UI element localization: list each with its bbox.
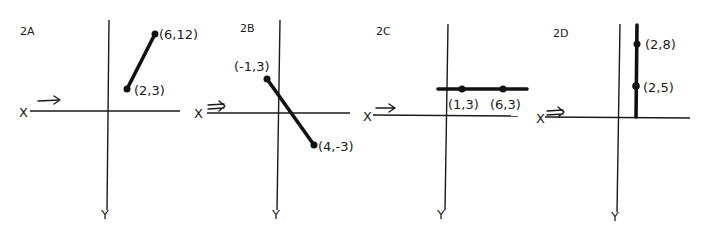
point-label: (6,12) — [159, 27, 198, 42]
y-axis-label: Y — [100, 207, 109, 222]
point — [500, 86, 507, 93]
x-axis-label: X — [19, 105, 28, 120]
line-segment — [267, 79, 314, 145]
figure-canvas: 2A X Y (6,12) (2,3) 2B X Y (-1,3) (4,-3)… — [0, 0, 717, 233]
x-direction-arrow-icon — [208, 101, 225, 111]
x-axis-label: X — [363, 109, 372, 124]
y-axis — [445, 24, 448, 210]
point-label: (6,3) — [490, 97, 521, 112]
panel-label: 2A — [20, 25, 35, 38]
panel-label: 2D — [553, 27, 568, 40]
panel-label: 2B — [240, 22, 255, 35]
panel-2a: 2A X Y (6,12) (2,3) — [19, 20, 198, 222]
x-axis — [373, 115, 518, 116]
point — [311, 142, 318, 149]
point — [634, 41, 641, 48]
vertical-line — [636, 25, 637, 117]
panel-2d: 2D X Y (2,8) (2,5) — [536, 24, 690, 224]
x-direction-arrow-icon — [376, 104, 395, 112]
x-axis-label: X — [536, 111, 545, 126]
point — [124, 86, 131, 93]
x-direction-arrow-icon — [547, 107, 564, 117]
point — [459, 86, 466, 93]
point-label: (2,8) — [645, 37, 676, 52]
line-segment — [127, 34, 155, 89]
point — [632, 82, 640, 90]
x-direction-arrow-icon — [38, 96, 60, 104]
x-axis-label: X — [194, 106, 203, 121]
point-label: (2,3) — [134, 83, 165, 98]
panel-2b: 2B X Y (-1,3) (4,-3) — [194, 20, 354, 222]
point-label: (4,-3) — [318, 139, 354, 154]
y-axis-label: Y — [610, 209, 619, 224]
point-label: (1,3) — [448, 97, 479, 112]
point-label: (-1,3) — [234, 59, 270, 74]
point — [152, 31, 159, 38]
y-axis-label: Y — [271, 207, 280, 222]
y-axis — [277, 20, 280, 210]
point-label: (2,5) — [643, 80, 674, 95]
x-axis — [545, 117, 690, 118]
point — [264, 76, 271, 83]
panel-label: 2C — [376, 25, 391, 38]
y-axis — [107, 20, 109, 210]
y-axis-label: Y — [436, 207, 445, 222]
panel-2c: 2C X Y (1,3) (6,3) — [363, 24, 527, 222]
